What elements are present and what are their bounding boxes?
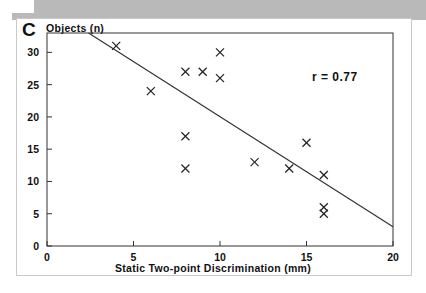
data-point-marker (303, 139, 311, 147)
data-point-marker (181, 165, 189, 173)
y-tick-label: 10 (27, 175, 39, 187)
trend-line (89, 33, 393, 227)
data-point-marker (147, 87, 155, 95)
figure-panel: C Objects (n) 05101520253005101520 r = 0… (0, 0, 426, 293)
data-point-marker (181, 132, 189, 140)
data-point-marker (320, 171, 328, 179)
data-point-marker (320, 203, 328, 211)
data-point-marker (199, 68, 207, 76)
plot-frame (47, 33, 393, 246)
data-point-marker (251, 158, 259, 166)
data-point-marker (216, 74, 224, 82)
y-tick-label: 20 (27, 111, 39, 123)
correlation-annotation: r = 0.77 (312, 70, 358, 84)
data-point-marker (112, 42, 120, 50)
x-axis-label: Static Two-point Discrimination (mm) (0, 262, 426, 274)
scatter-plot: 05101520253005101520 (0, 0, 426, 293)
data-point-marker (181, 68, 189, 76)
y-tick-label: 15 (27, 143, 39, 155)
y-tick-label: 0 (33, 240, 39, 252)
data-point-marker (285, 165, 293, 173)
data-point-marker (216, 48, 224, 56)
data-point-marker (320, 210, 328, 218)
y-tick-label: 30 (27, 46, 39, 58)
y-tick-label: 5 (33, 208, 39, 220)
y-tick-label: 25 (27, 79, 39, 91)
